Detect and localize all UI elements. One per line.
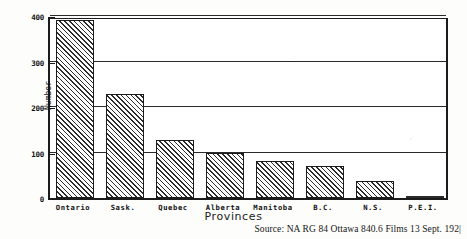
bar-series [50, 19, 446, 198]
y-tick-100: 100 [48, 154, 55, 155]
bar-chart-figure: 0100200300400 Number OntarioSask.QuebecA… [0, 0, 467, 239]
bar-n-s [356, 181, 394, 198]
y-tick-300: 300 [48, 63, 55, 64]
y-tick-label: 100 [31, 150, 44, 159]
y-tick-label: 300 [31, 59, 44, 68]
bar-b-c [306, 166, 344, 198]
plot-area [48, 18, 448, 200]
y-tick-400: 400 [48, 17, 55, 18]
bar-ontario [56, 20, 94, 198]
gridline-400 [50, 15, 446, 16]
bar-alberta [206, 153, 244, 199]
y-axis-title: Number [44, 81, 53, 110]
y-tick-label: 200 [31, 104, 44, 113]
bar-sask [106, 94, 144, 198]
x-axis-title: Provinces [0, 210, 467, 223]
y-tick-label: 0 [40, 195, 44, 204]
bar-manitoba [256, 161, 294, 198]
bar-quebec [156, 140, 194, 198]
y-tick-label: 400 [31, 13, 44, 22]
y-tick-0: 0 [48, 199, 55, 200]
source-note: Source: NA RG 84 Ottawa 840.6 Films 13 S… [0, 224, 461, 234]
bar-p-e-i [406, 196, 444, 198]
